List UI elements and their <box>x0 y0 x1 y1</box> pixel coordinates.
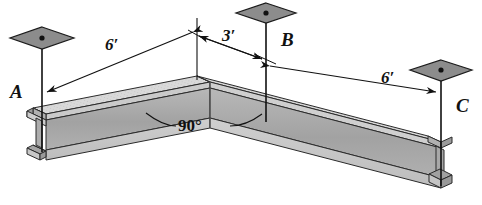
angle-label-bend: 90° <box>178 117 202 134</box>
anchor-plate-b <box>236 3 296 23</box>
beam-left-end-cross-section <box>27 108 46 160</box>
beam-diagram-svg <box>0 0 482 205</box>
anchor-plate-c <box>410 60 472 81</box>
support-label-b: B <box>281 30 294 49</box>
support-label-c: C <box>456 96 469 115</box>
dimension-label-right-span: 6′ <box>381 69 394 86</box>
anchor-pin-a <box>39 35 44 40</box>
figure-canvas: A B C 6′ 3′ 6′ 90° <box>0 0 482 205</box>
anchor-pin-b <box>263 10 268 15</box>
anchor-pin-c <box>438 67 443 72</box>
dimension-label-left-span: 6′ <box>105 36 118 53</box>
anchor-plate-a <box>10 27 74 49</box>
left-end-web <box>36 118 42 148</box>
support-label-a: A <box>10 82 23 101</box>
dimension-label-mid-span: 3′ <box>222 27 235 44</box>
beam-right-segment <box>197 76 441 188</box>
